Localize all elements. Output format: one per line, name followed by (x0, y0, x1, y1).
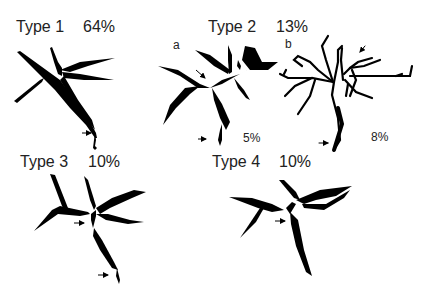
type2-title: Type 2 (208, 19, 256, 35)
type2a-drawing (158, 45, 278, 146)
type4-title: Type 4 (212, 154, 260, 170)
type1-percent: 64% (83, 19, 115, 35)
branch-drawings (0, 0, 428, 295)
type3-title: Type 3 (20, 154, 68, 170)
type1-drawing (14, 47, 115, 150)
subpanel-b-percent: 8% (371, 131, 388, 143)
type3-percent: 10% (88, 154, 120, 170)
type4-drawing (229, 180, 352, 276)
type1-title: Type 1 (16, 19, 64, 35)
subpanel-a-percent: 5% (243, 132, 260, 144)
type2b-drawing (280, 36, 412, 150)
figure: Type 1 64% Type 2 13% a b 5% 8% Type 3 1… (0, 0, 428, 295)
subpanel-a-label: a (173, 39, 180, 51)
subpanel-b-label: b (285, 38, 292, 50)
type2-percent: 13% (276, 19, 308, 35)
type4-percent: 10% (279, 154, 311, 170)
type3-drawing (34, 174, 146, 284)
